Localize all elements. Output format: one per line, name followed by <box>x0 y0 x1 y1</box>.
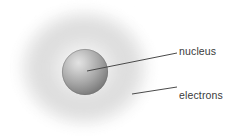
nucleus-label: nucleus <box>179 46 216 57</box>
electrons-label: electrons <box>179 90 223 101</box>
atom-diagram-figure: nucleus electrons <box>0 0 239 136</box>
nucleus-sphere <box>62 49 108 95</box>
diagram-canvas <box>0 0 239 136</box>
